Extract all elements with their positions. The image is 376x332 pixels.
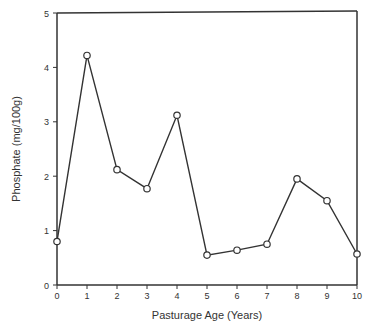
y-tick-label: 0	[44, 281, 49, 291]
data-point-marker	[174, 112, 180, 118]
data-point-marker	[264, 241, 270, 247]
y-tick-label: 4	[44, 63, 49, 73]
y-tick-label: 3	[44, 117, 49, 127]
data-point-marker	[324, 197, 330, 203]
data-point-marker	[354, 251, 360, 257]
phosphate-line-chart: 012345 012345678910 Pasturage Age (Years…	[0, 0, 376, 332]
x-tick-label: 8	[294, 291, 299, 301]
x-tick-label: 2	[114, 291, 119, 301]
x-tick-label: 1	[84, 291, 89, 301]
y-tick-label: 1	[44, 226, 49, 236]
data-point-marker	[144, 186, 150, 192]
y-tick-label: 2	[44, 172, 49, 182]
x-tick-label: 6	[234, 291, 239, 301]
plot-frame	[57, 11, 357, 285]
data-point-marker	[204, 252, 210, 258]
data-point-marker	[54, 238, 60, 244]
x-tick-label: 0	[54, 291, 59, 301]
y-axis-ticks: 012345	[44, 9, 57, 291]
chart-svg: 012345 012345678910 Pasturage Age (Years…	[0, 0, 376, 332]
data-point-marker	[234, 247, 240, 253]
x-tick-label: 9	[324, 291, 329, 301]
data-series	[54, 52, 360, 258]
series-line	[57, 55, 357, 255]
x-axis-label: Pasturage Age (Years)	[152, 309, 262, 321]
y-axis-label: Phosphate (mg/100g)	[10, 96, 22, 202]
x-tick-label: 5	[204, 291, 209, 301]
y-tick-label: 5	[44, 9, 49, 19]
x-axis-ticks: 012345678910	[54, 285, 362, 301]
data-point-marker	[294, 176, 300, 182]
data-point-marker	[84, 52, 90, 58]
x-tick-label: 3	[144, 291, 149, 301]
x-tick-label: 7	[264, 291, 269, 301]
x-tick-label: 4	[174, 291, 179, 301]
top-border	[57, 11, 357, 13]
data-point-marker	[114, 166, 120, 172]
x-tick-label: 10	[352, 291, 362, 301]
